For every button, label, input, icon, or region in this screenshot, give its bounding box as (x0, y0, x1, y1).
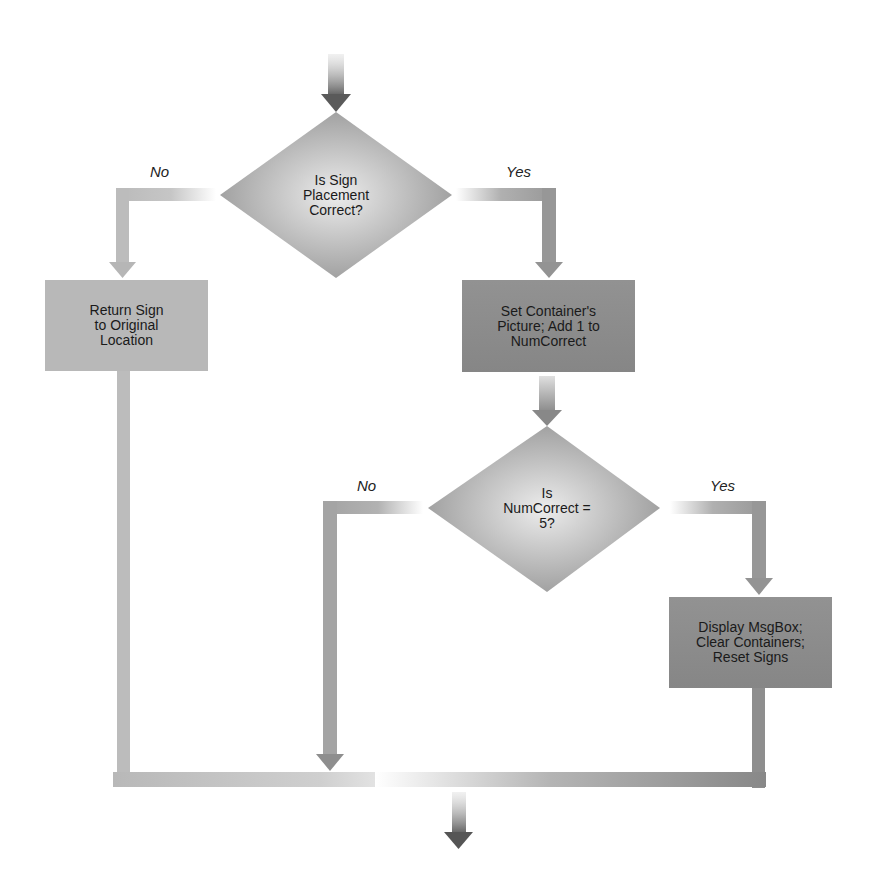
label-num-yes: Yes (710, 477, 735, 494)
flowchart-canvas (0, 0, 871, 888)
connector-num-no (316, 501, 423, 771)
process-display-msgbox-text: Display MsgBox; Clear Containers; Reset … (669, 597, 832, 688)
connector-merge-right (375, 772, 766, 787)
connector-num-yes (670, 501, 773, 595)
decision-numcorrect-text: Is NumCorrect = 5? (474, 473, 620, 543)
label-sign-yes: Yes (506, 163, 531, 180)
connector-set-to-num (532, 376, 562, 426)
label-num-no: No (357, 477, 376, 494)
connector-return-down (117, 371, 130, 782)
label-sign-no: No (150, 163, 169, 180)
process-return-sign-text: Return Sign to Original Location (45, 280, 208, 371)
start-arrow (321, 54, 351, 112)
end-arrow (444, 792, 473, 849)
process-set-container-text: Set Container's Picture; Add 1 to NumCor… (462, 280, 635, 372)
connector-sign-no (109, 188, 216, 278)
connector-sign-yes (456, 188, 563, 278)
decision-sign-placement-text: Is Sign Placement Correct? (266, 160, 406, 230)
